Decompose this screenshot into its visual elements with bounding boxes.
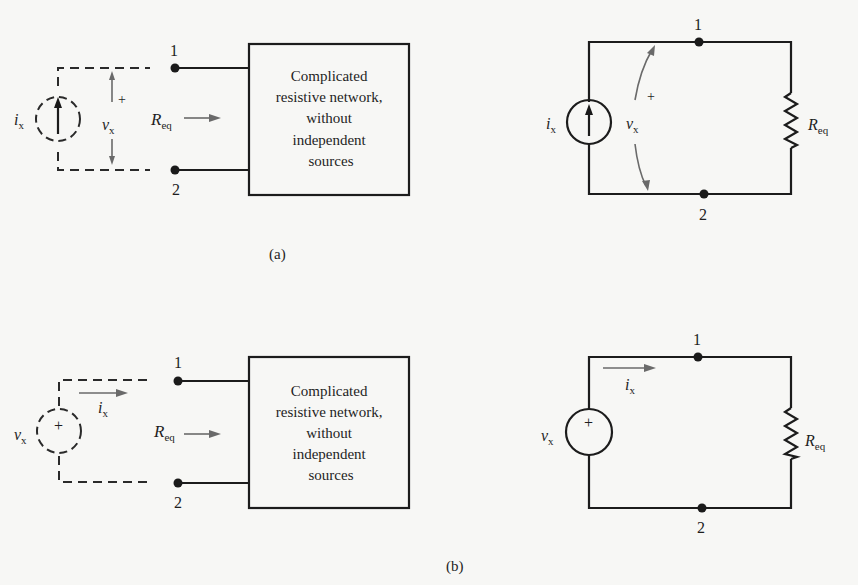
node-2-dot <box>700 190 709 199</box>
req-label: Req <box>150 110 172 131</box>
arrowhead-icon <box>54 97 62 108</box>
source-label: vx <box>14 426 27 446</box>
wire-bottom <box>589 455 791 508</box>
arrowhead-icon <box>116 389 128 397</box>
current-label: ix <box>98 399 108 419</box>
wire-top <box>589 357 791 409</box>
node-2-label: 2 <box>174 494 182 511</box>
plus-sign: + <box>118 92 126 107</box>
dashed-wire-bottom <box>59 456 150 482</box>
panel-a-test-circuit: ix + vx 1 2 Req Complicated resistive ne… <box>14 42 409 198</box>
dashed-wire-top <box>58 68 150 86</box>
source-label: ix <box>14 111 24 131</box>
node-2-label: 2 <box>172 181 180 198</box>
panel-a-equivalent-circuit: ix + vx Req 1 2 <box>546 16 829 223</box>
node-2-dot <box>698 504 707 513</box>
node-1-label: 1 <box>693 331 701 348</box>
arrowhead-icon <box>209 114 221 122</box>
node-1-label: 1 <box>170 42 178 59</box>
panel-b-test-circuit: + vx ix 1 2 Req Complicated resistive ne… <box>14 354 409 511</box>
dashed-wire-bottom <box>58 152 150 170</box>
voltage-label: vx <box>626 115 639 135</box>
source-label: vx <box>541 427 554 447</box>
plus-sign: + <box>647 89 655 104</box>
plus-sign: + <box>54 417 63 434</box>
network-box-text: Complicated resistive network, without i… <box>276 68 386 169</box>
req-label: Req <box>153 422 175 443</box>
wire-bottom <box>589 143 791 194</box>
node-1-dot <box>695 38 704 47</box>
resistor-label: Req <box>807 116 829 136</box>
arrowhead-icon <box>644 364 656 372</box>
node-2-label: 2 <box>697 519 705 536</box>
arrowhead-icon <box>209 430 221 438</box>
arrowhead-icon <box>642 180 650 191</box>
resistor-label: Req <box>804 432 826 452</box>
caption-a: (a) <box>269 246 286 263</box>
resistor-icon <box>785 408 797 459</box>
node-1-dot <box>694 353 703 362</box>
voltage-arc-down-icon <box>635 144 646 186</box>
arrowhead-icon <box>585 104 593 115</box>
voltage-label: vx <box>102 116 115 136</box>
arrowhead-icon <box>109 156 115 165</box>
current-label: ix <box>625 376 635 396</box>
node-1-label: 1 <box>694 16 702 33</box>
source-label: ix <box>546 115 556 135</box>
figure-canvas: ix + vx 1 2 Req Complicated resistive ne… <box>0 0 858 585</box>
node-2-label: 2 <box>699 206 707 223</box>
panel-b-equivalent-circuit: + vx ix Req 1 2 <box>541 331 826 536</box>
network-box-text: Complicated resistive network, without i… <box>276 383 386 483</box>
plus-sign: + <box>584 414 593 431</box>
resistor-icon <box>785 93 797 148</box>
wire-top <box>589 42 791 102</box>
node-1-label: 1 <box>174 354 182 371</box>
arrowhead-icon <box>647 45 655 56</box>
arrowhead-icon <box>109 71 115 80</box>
caption-b: (b) <box>446 558 464 575</box>
